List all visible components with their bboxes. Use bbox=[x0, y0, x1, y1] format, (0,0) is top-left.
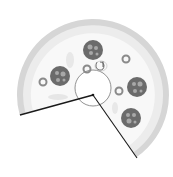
center-circle bbox=[75, 70, 111, 106]
pepperoni bbox=[50, 66, 70, 86]
pepperoni bbox=[121, 108, 141, 128]
pepperoni bbox=[83, 40, 103, 60]
center-dot bbox=[92, 94, 95, 97]
pizza-illustration: Grayscale pizza icon with a missing slic… bbox=[0, 0, 173, 177]
sauce-smudge bbox=[66, 52, 74, 68]
sauce-smudge bbox=[48, 94, 68, 100]
sauce-smudge bbox=[112, 102, 118, 114]
pizza-icon bbox=[0, 0, 173, 177]
pepperoni bbox=[127, 77, 147, 97]
